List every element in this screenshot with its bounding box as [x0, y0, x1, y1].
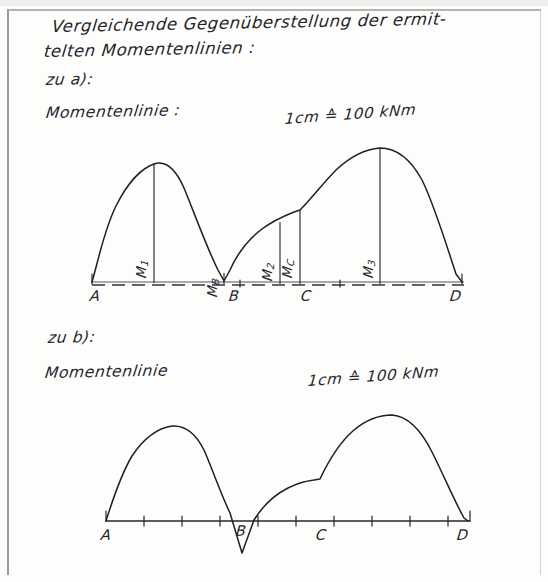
ordinate-label-m2-sub: 2: [265, 261, 276, 270]
support-label-c-diagram-a: C: [300, 288, 312, 304]
ordinate-label-mb-sub: B: [210, 277, 221, 286]
section-a-heading: zu a):: [45, 70, 95, 89]
support-label-a-diagram-a: A: [89, 288, 101, 304]
moment-curve-b: [106, 415, 468, 553]
ordinate-label-mc-sub: C: [285, 258, 296, 267]
ordinate-label-mb: MB: [204, 276, 221, 298]
support-label-b-diagram-b: B: [235, 523, 247, 539]
momentenlinie-diagram-b: [92, 398, 484, 582]
page-title-line-2: telten Momentenlinien :: [43, 35, 257, 64]
notebook-page: Vergleichende Gegenüberstellung der ermi…: [0, 0, 548, 582]
support-label-a-diagram-b: A: [100, 527, 112, 543]
section-b-heading: zu b):: [47, 328, 97, 347]
page-top-edge: [0, 0, 548, 6]
support-label-b-diagram-a: B: [228, 288, 240, 304]
ordinate-label-mc: MC: [279, 257, 296, 279]
ordinate-label-m3: M3: [360, 257, 377, 279]
support-label-c-diagram-b: C: [315, 527, 327, 543]
support-label-d-diagram-a: D: [449, 288, 463, 304]
ordinate-label-m3-sub: 3: [366, 258, 377, 267]
ordinate-label-m2: M2: [259, 260, 276, 282]
ordinate-label-m1-sub: 1: [139, 258, 150, 267]
section-b-caption: Momentenlinie: [44, 361, 169, 382]
support-label-d-diagram-b: D: [456, 527, 470, 543]
ordinate-label-m1: M1: [133, 257, 150, 279]
section-a-caption: Momentenlinie :: [45, 101, 182, 122]
